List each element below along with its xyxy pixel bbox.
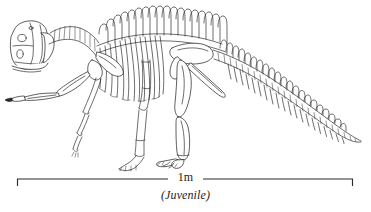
- tibia-fibula: [176, 117, 190, 160]
- manus: [5, 96, 25, 102]
- ischium: [187, 63, 225, 97]
- caudal-neural-spines: [220, 40, 346, 131]
- scale-bar-label: 1m: [0, 170, 371, 184]
- skull: [10, 21, 54, 69]
- femur: [175, 60, 192, 117]
- tibia-fibula-far-side: [135, 110, 147, 157]
- humerus: [56, 72, 90, 96]
- pes-far-side: [119, 156, 144, 171]
- cervical-vertebrae: [49, 26, 99, 57]
- caudal-vertebrae: [213, 50, 361, 142]
- radius-ulna: [24, 93, 60, 100]
- humerus-far-side: [72, 78, 101, 157]
- chevrons: [228, 64, 344, 144]
- figure-caption: (Juvenile): [0, 188, 371, 202]
- skeletal-figure: 1m (Juvenile): [0, 0, 371, 212]
- pes: [157, 159, 184, 168]
